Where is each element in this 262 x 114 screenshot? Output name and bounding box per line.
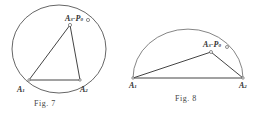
point-a3 [210,51,213,54]
label-a2: A2 [238,81,247,90]
triangle [29,25,80,80]
caption-fig-8: Fig. 8 [175,94,197,103]
label-a3-p0: A3-P0 [202,40,221,49]
triangle [133,52,243,78]
label-a3-p0: A3-P0 [64,14,83,23]
point-a1 [132,77,134,79]
figure-7: A3-P0 A1 A2 Fig. 7 [12,5,106,108]
point-a1 [28,79,30,81]
point-p0 [226,46,229,49]
semicircle-arc [133,29,243,78]
point-a2 [242,77,244,79]
point-a2 [79,79,81,81]
point-p0 [86,18,89,21]
label-a1: A1 [16,85,25,94]
label-a1: A1 [128,81,137,90]
caption-fig-7: Fig. 7 [34,99,56,108]
figure-8: A3-P0 A1 A2 Fig. 8 [128,29,247,103]
diagram-canvas: A3-P0 A1 A2 Fig. 7 A3-P0 A1 A2 Fig. 8 [0,0,262,114]
point-a3 [68,23,71,26]
label-a2: A2 [79,85,88,94]
